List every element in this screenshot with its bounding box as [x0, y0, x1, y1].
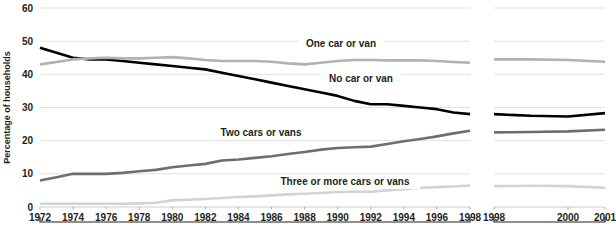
- x-tick-label: 1984: [227, 212, 250, 223]
- y-tick-label: 0: [27, 202, 33, 213]
- x-tick-label: 1994: [393, 212, 416, 223]
- y-axis-title: Percentage of households: [2, 51, 12, 164]
- inline-series-label: Two cars or vans: [221, 127, 302, 138]
- y-tick-label: 10: [22, 168, 34, 179]
- series-line-panel1: [40, 57, 470, 64]
- x-tick-label: 1976: [95, 212, 118, 223]
- x-tick-label: 2000: [557, 212, 580, 223]
- y-tick-label: 50: [22, 36, 34, 47]
- y-tick-label: 20: [22, 135, 34, 146]
- x-axis-group: 1972197419761978198019821984198619881990…: [29, 207, 616, 223]
- axis-bracket-panel2: [494, 217, 605, 222]
- x-tick-label: 1990: [327, 212, 350, 223]
- y-tick-label: 60: [22, 3, 34, 14]
- x-tick-label: 1992: [360, 212, 383, 223]
- series-two-cars-or-vans: [40, 130, 605, 181]
- x-tick-label: 1988: [293, 212, 316, 223]
- inline-series-label: No car or van: [329, 73, 393, 84]
- y-tick-label: 40: [22, 69, 34, 80]
- x-tick-label: 1980: [161, 212, 184, 223]
- series-line-panel2: [494, 113, 605, 116]
- x-tick-label: 1978: [128, 212, 151, 223]
- y-axis-group: 0102030405060: [22, 3, 34, 213]
- x-tick-label: 1974: [62, 212, 85, 223]
- inline-series-label: Three or more cars or vans: [281, 176, 410, 187]
- line-chart: 0102030405060Percentage of householdsOne…: [0, 0, 616, 236]
- x-tick-label: 1996: [426, 212, 449, 223]
- series-line-panel2: [494, 186, 605, 188]
- x-tick-label: 1986: [260, 212, 283, 223]
- chart-container: 0102030405060Percentage of householdsOne…: [0, 0, 616, 236]
- series-line-panel2: [494, 130, 605, 133]
- axis-brackets-group: [40, 217, 605, 222]
- x-tick-label: 1982: [194, 212, 217, 223]
- inline-series-label: One car or van: [306, 38, 376, 49]
- series-line-panel2: [494, 59, 605, 61]
- y-tick-label: 30: [22, 102, 34, 113]
